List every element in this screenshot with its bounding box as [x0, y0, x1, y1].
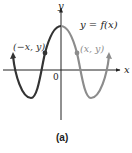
arrow-left-icon: [10, 52, 16, 59]
arrow-right-icon: [106, 52, 112, 59]
curve-right: [61, 26, 109, 98]
y-axis-label: y: [57, 0, 64, 11]
figure-caption: (a): [56, 132, 68, 143]
point-right: [75, 51, 80, 56]
point-right-label: (x, y): [80, 43, 104, 54]
curve-left: [13, 26, 61, 98]
function-label: y = f(x): [79, 19, 118, 30]
even-function-graph: y x 0 y = f(x) (−x, y) (x, y) (a): [0, 0, 132, 153]
point-left-label: (−x, y): [13, 41, 45, 52]
origin-label: 0: [53, 72, 59, 82]
x-axis-label: x: [124, 64, 130, 75]
